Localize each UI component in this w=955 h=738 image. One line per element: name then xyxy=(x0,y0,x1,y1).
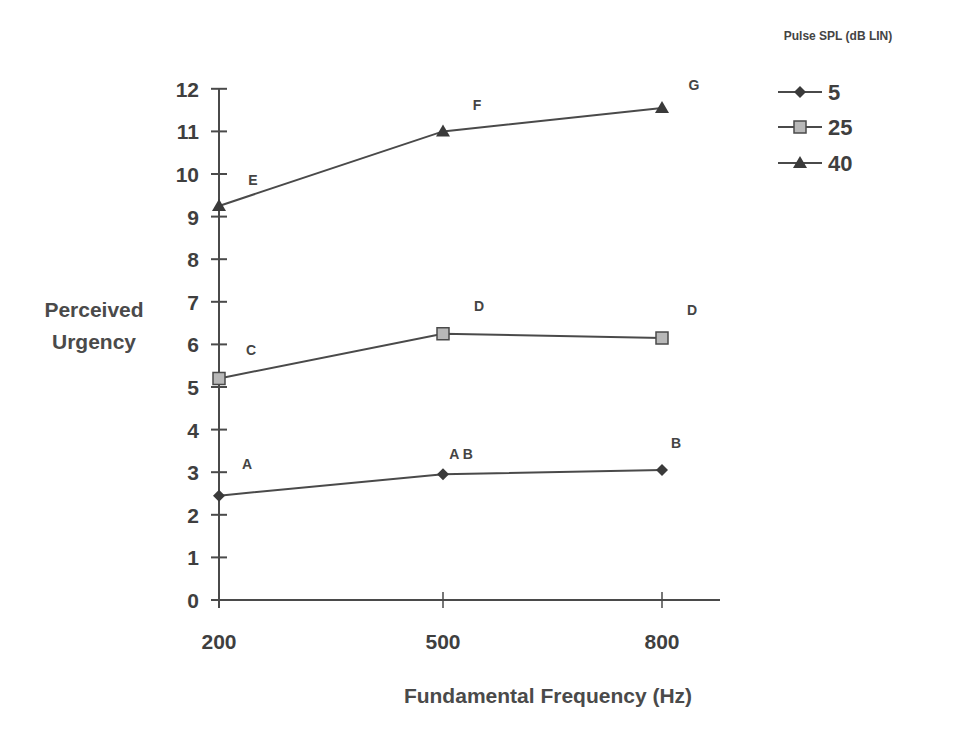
point-labels: AA BBCDDEFG xyxy=(242,77,700,472)
legend-title: Pulse SPL (dB LIN) xyxy=(784,29,892,43)
legend-entry: 5 xyxy=(778,80,840,105)
y-tick-label: 0 xyxy=(187,589,199,612)
legend: Pulse SPL (dB LIN)52540 xyxy=(778,29,892,176)
y-tick-label: 4 xyxy=(187,419,199,442)
y-axis-title-line1: Perceived xyxy=(44,298,143,321)
y-tick-label: 2 xyxy=(187,504,199,527)
point-label: C xyxy=(246,342,256,358)
y-tick-label: 7 xyxy=(187,291,199,314)
point-label: A xyxy=(242,456,252,472)
square-marker xyxy=(213,372,225,384)
y-tick-label: 10 xyxy=(176,163,199,186)
series-line-40 xyxy=(219,108,662,206)
x-axis-title: Fundamental Frequency (Hz) xyxy=(404,684,692,707)
y-tick-label: 8 xyxy=(187,248,199,271)
y-tick-label: 5 xyxy=(187,376,199,399)
legend-label: 40 xyxy=(828,151,852,176)
axes: 0123456789101112200500800Fundamental Fre… xyxy=(44,78,720,707)
legend-entry: 40 xyxy=(778,151,852,176)
y-tick-label: 12 xyxy=(176,78,199,101)
point-label: B xyxy=(671,435,681,451)
diamond-marker xyxy=(213,490,225,502)
point-label: F xyxy=(473,97,482,113)
series-group xyxy=(212,101,669,502)
legend-label: 25 xyxy=(828,115,852,140)
point-label: D xyxy=(687,302,697,318)
point-label: A B xyxy=(449,446,473,462)
diamond-marker xyxy=(437,468,449,480)
square-legend-icon xyxy=(794,121,806,133)
triangle-marker xyxy=(655,101,669,113)
x-tick-label: 500 xyxy=(425,630,460,653)
square-marker xyxy=(656,332,668,344)
point-label: E xyxy=(248,172,257,188)
y-tick-label: 11 xyxy=(177,120,200,143)
point-label: D xyxy=(474,298,484,314)
diamond-marker xyxy=(656,464,668,476)
x-tick-label: 800 xyxy=(644,630,679,653)
legend-entry: 25 xyxy=(778,115,852,140)
y-tick-label: 1 xyxy=(187,546,199,569)
square-marker xyxy=(437,328,449,340)
diamond-legend-icon xyxy=(794,86,806,98)
y-tick-label: 6 xyxy=(187,333,199,356)
legend-label: 5 xyxy=(828,80,840,105)
line-chart: 0123456789101112200500800Fundamental Fre… xyxy=(0,0,955,738)
x-tick-label: 200 xyxy=(201,630,236,653)
point-label: G xyxy=(689,77,700,93)
y-axis-title-line2: Urgency xyxy=(52,330,136,353)
y-tick-label: 9 xyxy=(187,206,199,229)
y-tick-label: 3 xyxy=(187,461,199,484)
